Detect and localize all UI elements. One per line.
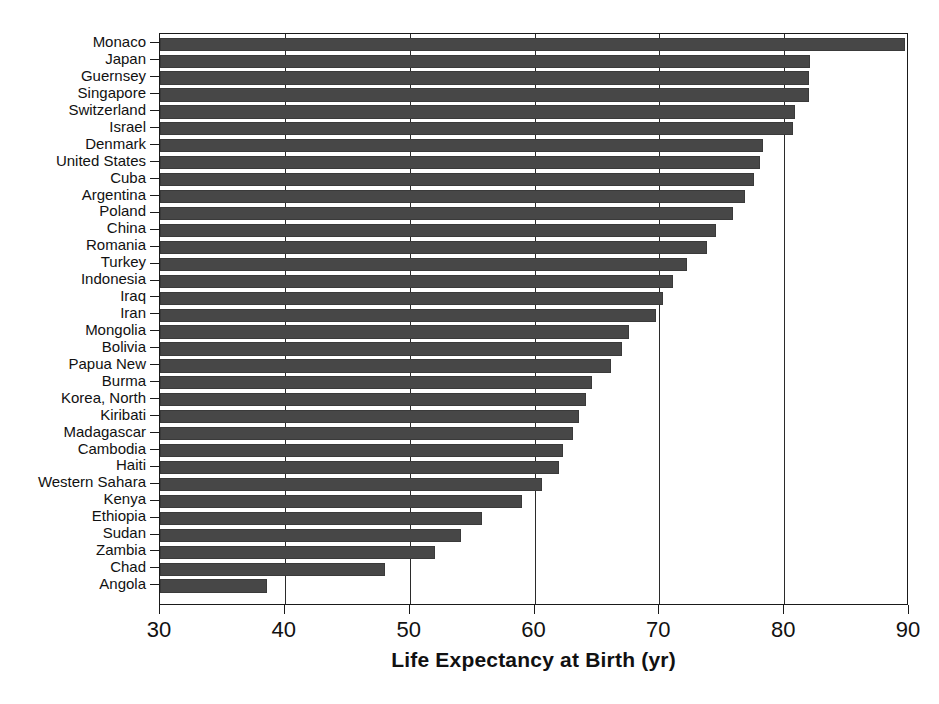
y-axis-tick <box>150 483 159 484</box>
bar <box>160 38 905 51</box>
y-axis-tick <box>150 500 159 501</box>
y-axis-label: Papua New <box>68 355 146 374</box>
bar <box>160 376 592 389</box>
y-axis-label: Zambia <box>96 541 146 560</box>
x-axis-tick-label-30: 30 <box>147 617 171 643</box>
y-axis-label: China <box>107 219 146 238</box>
y-axis-label: Burma <box>102 372 146 391</box>
bar <box>160 478 542 491</box>
x-axis-tick-30 <box>159 605 160 614</box>
y-axis-tick <box>150 534 159 535</box>
bar <box>160 156 760 169</box>
bar-row <box>160 238 907 255</box>
x-axis-tick-label-80: 80 <box>771 617 795 643</box>
bar-row <box>160 323 907 340</box>
bar-row <box>160 424 907 441</box>
x-axis-tick-50 <box>409 605 410 614</box>
bar-row <box>160 103 907 120</box>
y-axis-tick <box>150 364 159 365</box>
bar <box>160 410 579 423</box>
bar <box>160 393 586 406</box>
y-axis-tick <box>150 76 159 77</box>
y-axis-tick <box>150 398 159 399</box>
x-axis-tick-70 <box>658 605 659 614</box>
y-axis-tick <box>150 567 159 568</box>
bar-row <box>160 170 907 187</box>
y-axis-label: Ethiopia <box>92 507 146 526</box>
bar-row <box>160 374 907 391</box>
bar <box>160 88 809 101</box>
bar <box>160 427 573 440</box>
y-axis-tick <box>150 296 159 297</box>
bar <box>160 105 795 118</box>
bar <box>160 275 673 288</box>
bar <box>160 139 763 152</box>
bar-row <box>160 560 907 577</box>
bar-row <box>160 391 907 408</box>
y-axis-tick <box>150 466 159 467</box>
plot-area <box>159 33 908 605</box>
y-axis-label: Japan <box>105 50 146 69</box>
bar-row <box>160 52 907 69</box>
bar <box>160 325 629 338</box>
bar-row <box>160 69 907 86</box>
figure-container: MonacoJapanGuernseySingaporeSwitzerlandI… <box>0 0 939 704</box>
bar <box>160 461 559 474</box>
y-axis-label: Israel <box>109 118 146 137</box>
y-axis-label: Iran <box>120 304 146 323</box>
bar-row <box>160 509 907 526</box>
bar-row <box>160 35 907 52</box>
x-axis-tick-label-50: 50 <box>396 617 420 643</box>
y-axis-label: Turkey <box>101 253 146 272</box>
bar <box>160 309 656 322</box>
bar <box>160 55 810 68</box>
bar <box>160 258 687 271</box>
x-axis-tick-60 <box>534 605 535 614</box>
bar <box>160 173 754 186</box>
bar-row <box>160 272 907 289</box>
bar <box>160 122 793 135</box>
bar-row <box>160 154 907 171</box>
bar-series <box>160 34 907 604</box>
y-axis-label: Monaco <box>93 33 146 52</box>
bar <box>160 241 707 254</box>
bar <box>160 292 663 305</box>
y-axis-tick <box>150 263 159 264</box>
bar <box>160 190 745 203</box>
bar-row <box>160 289 907 306</box>
x-axis-tick-label-60: 60 <box>521 617 545 643</box>
y-axis-tick <box>150 280 159 281</box>
y-axis-label: Kiribati <box>100 406 146 425</box>
bar <box>160 224 716 237</box>
y-axis-label: Iraq <box>120 287 146 306</box>
y-axis-label: Mongolia <box>85 321 146 340</box>
x-axis-tick-labels: 30405060708090 <box>159 617 908 643</box>
y-axis-label: Bolivia <box>102 338 146 357</box>
y-axis-tick <box>150 246 159 247</box>
bar-row <box>160 475 907 492</box>
bar-row <box>160 408 907 425</box>
bar <box>160 359 611 372</box>
bar-row <box>160 357 907 374</box>
x-axis-tick-90 <box>908 605 909 614</box>
y-axis-label: Angola <box>99 575 146 594</box>
bar-row <box>160 543 907 560</box>
bar <box>160 71 809 84</box>
bar <box>160 529 461 542</box>
y-axis-tick <box>150 178 159 179</box>
x-axis-tick-80 <box>783 605 784 614</box>
y-axis-label: Western Sahara <box>38 473 146 492</box>
y-axis-label: Argentina <box>82 186 146 205</box>
y-axis-label: Poland <box>99 202 146 221</box>
y-axis-label: Chad <box>110 558 146 577</box>
y-axis-tick <box>150 517 159 518</box>
y-axis-label: Cambodia <box>78 440 146 459</box>
x-axis-tick-40 <box>284 605 285 614</box>
y-axis-tick <box>150 313 159 314</box>
y-axis-tick <box>150 415 159 416</box>
bar-row <box>160 255 907 272</box>
y-axis-tick <box>150 59 159 60</box>
y-axis-tick <box>150 144 159 145</box>
y-axis-label: Haiti <box>116 456 146 475</box>
y-axis-labels: MonacoJapanGuernseySingaporeSwitzerlandI… <box>0 33 159 605</box>
